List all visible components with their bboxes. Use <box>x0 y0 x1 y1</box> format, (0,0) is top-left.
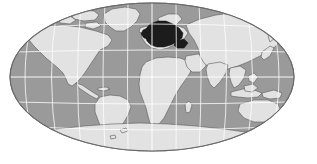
meridian-30e <box>176 3 177 151</box>
world-map-canvas[interactable] <box>0 0 304 156</box>
map-frame: World map with highlighted region <box>0 0 304 156</box>
landmass-falklands <box>110 135 116 139</box>
world-map-figure: World map with highlighted region <box>0 0 317 164</box>
meridian-30w <box>128 3 129 151</box>
